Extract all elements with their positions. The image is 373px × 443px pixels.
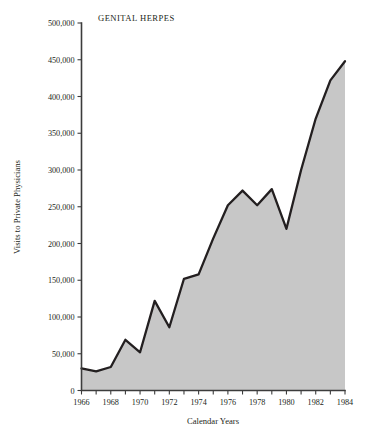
x-tick-label: 1980 <box>278 398 294 407</box>
x-axis-title: Calendar Years <box>187 416 240 426</box>
x-tick-label: 1966 <box>73 398 89 407</box>
y-tick-label: 200,000 <box>48 240 75 249</box>
y-tick-label: 450,000 <box>48 56 75 65</box>
y-tick-label: 50,000 <box>52 350 75 359</box>
x-tick-label: 1968 <box>103 398 119 407</box>
chart-title: GENITAL HERPES <box>98 13 175 23</box>
chart-figure: 050,000100,000150,000200,000250,000300,0… <box>0 0 373 443</box>
y-tick-label: 150,000 <box>48 276 75 285</box>
x-tick-label: 1978 <box>249 398 265 407</box>
y-tick-label: 300,000 <box>48 166 75 175</box>
genital-herpes-area-chart: 050,000100,000150,000200,000250,000300,0… <box>0 0 373 443</box>
y-tick-label: 250,000 <box>48 203 75 212</box>
y-tick-label: 500,000 <box>48 19 75 28</box>
x-tick-label: 1984 <box>337 398 353 407</box>
y-axis-title: Visits to Private Physicians <box>12 159 22 253</box>
y-tick-label: 100,000 <box>48 313 75 322</box>
y-tick-label: 0 <box>70 387 74 396</box>
x-tick-label: 1976 <box>220 398 236 407</box>
x-tick-label: 1974 <box>190 398 206 407</box>
y-tick-label: 400,000 <box>48 93 75 102</box>
x-tick-label: 1972 <box>161 398 177 407</box>
x-tick-label: 1982 <box>308 398 324 407</box>
x-tick-label: 1970 <box>132 398 148 407</box>
y-tick-label: 350,000 <box>48 129 75 138</box>
